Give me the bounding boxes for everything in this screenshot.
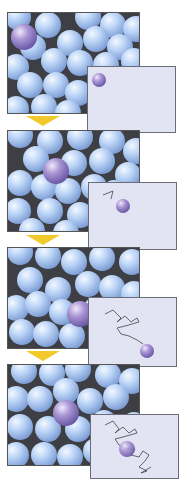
tagged-particle-inset-4 <box>119 441 135 457</box>
frame-1-inset <box>87 66 176 133</box>
tagged-particle-1 <box>11 24 37 50</box>
down-arrow-2 <box>26 235 60 245</box>
tagged-particle-4 <box>53 400 79 426</box>
tagged-particle-2 <box>43 158 69 184</box>
tagged-particle-inset-3 <box>140 344 154 358</box>
tagged-particle-inset-2 <box>116 199 130 213</box>
frame-2-inset <box>88 182 177 250</box>
tagged-particle-inset-1 <box>92 73 106 87</box>
down-arrow-3 <box>26 351 60 361</box>
frame-4-inset <box>90 414 179 479</box>
frame-3-inset <box>88 297 177 367</box>
down-arrow-1 <box>26 116 60 126</box>
